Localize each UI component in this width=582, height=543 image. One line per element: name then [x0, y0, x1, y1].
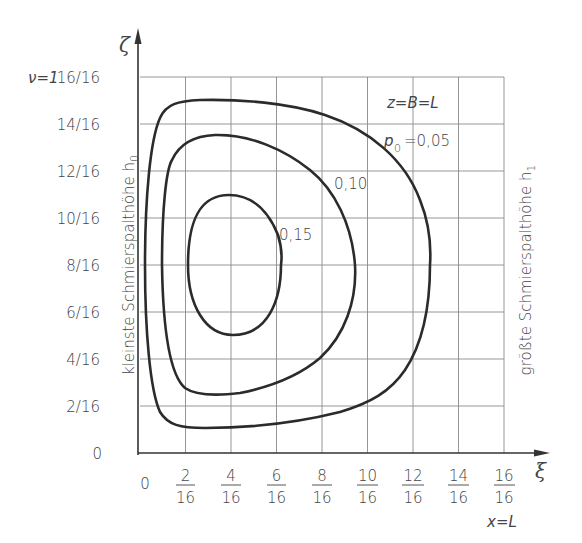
x-tick-0: 0	[140, 475, 150, 493]
label-p0-010: 0,10	[334, 175, 367, 193]
xi-arrow-icon	[534, 450, 550, 457]
svg-text:4: 4	[226, 467, 236, 485]
x-tick-10-16: 10 16	[357, 467, 378, 507]
zeta-arrow-icon	[135, 28, 142, 44]
svg-text:16: 16	[494, 467, 513, 485]
svg-text:16: 16	[358, 489, 377, 507]
y-tick-10-16: 10/16	[57, 210, 100, 228]
left-side-label: kleinste Schmierspalthöhe h0	[120, 155, 141, 375]
label-p0-015: 0,15	[279, 226, 312, 244]
svg-text:kleinste Schmierspalthöhe h0: kleinste Schmierspalthöhe h0	[120, 155, 141, 375]
y-tick-2-16: 2/16	[66, 398, 100, 416]
x-tick-2-16: 2 16	[176, 467, 195, 507]
svg-text:8: 8	[317, 467, 327, 485]
svg-text:2: 2	[181, 467, 191, 485]
svg-text:16: 16	[176, 489, 195, 507]
y-tick-8-16: 8/16	[66, 257, 100, 275]
x-tick-6-16: 6 16	[267, 467, 286, 507]
x-tick-8-16: 8 16	[312, 467, 332, 507]
label-p0-005: p 0 =0,05	[383, 132, 450, 155]
x-tick-16-16: 16 16	[494, 467, 515, 507]
svg-text:größte Schmierspalthöhe h1: größte Schmierspalthöhe h1	[517, 165, 538, 376]
svg-text:=0,05: =0,05	[404, 132, 450, 150]
svg-text:16: 16	[449, 489, 468, 507]
x-tick-4-16: 4 16	[221, 467, 241, 507]
svg-text:12: 12	[403, 467, 422, 485]
y-tick-0: 0	[92, 445, 102, 463]
svg-text:16: 16	[312, 489, 331, 507]
x-equals-L-label: x=L	[486, 513, 517, 531]
zeta-axis-label: ζ	[119, 33, 131, 57]
svg-text:16: 16	[267, 489, 286, 507]
annotation-z-B-L: z=B=L	[386, 94, 439, 112]
svg-text:6: 6	[272, 467, 282, 485]
right-side-label: größte Schmierspalthöhe h1	[517, 165, 538, 376]
x-tick-14-16: 14 16	[448, 467, 469, 507]
svg-text:10: 10	[358, 467, 377, 485]
y-tick-6-16: 6/16	[66, 304, 100, 322]
xi-axis-label: ξ	[535, 459, 547, 483]
x-tick-labels: 0 2 16 4 16 6 16 8 16 10 16 12	[140, 467, 515, 507]
svg-text:16: 16	[494, 489, 513, 507]
svg-text:16: 16	[221, 489, 240, 507]
x-tick-12-16: 12 16	[402, 467, 424, 507]
y-tick-4-16: 4/16	[66, 351, 100, 369]
svg-text:14: 14	[449, 467, 468, 485]
y-tick-labels: 0 2/16 4/16 6/16 8/16 10/16 12/16 14/16 …	[28, 69, 102, 463]
y-tick-14-16: 14/16	[57, 116, 100, 134]
contour-chart: 0 2/16 4/16 6/16 8/16 10/16 12/16 14/16 …	[0, 0, 582, 543]
svg-text:p: p	[383, 132, 394, 150]
y-tick-12-16: 12/16	[57, 163, 100, 181]
svg-text:0: 0	[394, 142, 401, 155]
svg-text:16: 16	[403, 489, 422, 507]
y-tick-16-16: 16/16	[57, 69, 100, 87]
nu-label: ν=1	[28, 69, 59, 87]
